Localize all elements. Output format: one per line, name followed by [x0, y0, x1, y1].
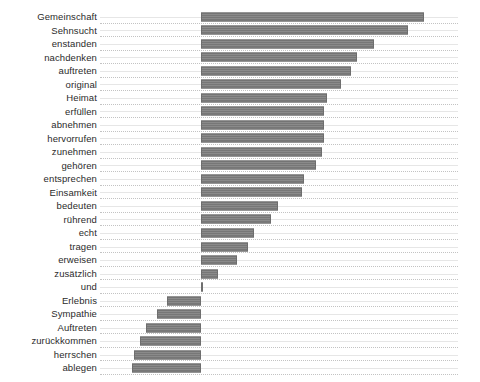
category-label-row: enstanden	[0, 37, 97, 51]
bar-row	[100, 280, 458, 294]
category-label: Einsamkeit	[50, 188, 97, 198]
bar	[201, 147, 322, 156]
bar-rows	[100, 10, 458, 375]
category-label: Sehnsucht	[51, 26, 97, 36]
bar	[201, 12, 424, 21]
category-label: erfüllen	[65, 107, 97, 117]
row-gridline-solid	[100, 274, 458, 275]
bar-row	[100, 213, 458, 227]
category-label-row: und	[0, 280, 97, 294]
category-label: zunehmen	[52, 147, 97, 157]
category-label: original	[66, 80, 97, 90]
category-label: ablegen	[62, 363, 97, 373]
row-gridline-solid	[100, 206, 458, 207]
bar	[167, 296, 201, 305]
bar-row	[100, 186, 458, 200]
category-label-row: erfüllen	[0, 105, 97, 119]
category-label: Auftreten	[58, 323, 97, 333]
bar-row	[100, 321, 458, 335]
bar-row	[100, 37, 458, 51]
bar	[201, 161, 316, 170]
category-label-row: original	[0, 78, 97, 92]
category-label-row: entsprechen	[0, 172, 97, 186]
bar	[201, 26, 408, 35]
bar-row	[100, 51, 458, 65]
category-label: bedeuten	[57, 201, 97, 211]
category-label-row: Sympathie	[0, 307, 97, 321]
bar-row	[100, 307, 458, 321]
row-gridline-solid	[100, 314, 458, 315]
row-gridline-solid	[100, 287, 458, 288]
bar	[201, 107, 324, 116]
category-label: Heimat	[66, 93, 97, 103]
category-label: hervorrufen	[47, 134, 97, 144]
bar-row	[100, 159, 458, 173]
bar-row	[100, 78, 458, 92]
bar	[146, 323, 201, 332]
category-label: echt	[79, 228, 97, 238]
row-gridline-solid	[100, 233, 458, 234]
category-label: tragen	[69, 242, 97, 252]
bar-row	[100, 294, 458, 308]
bar	[134, 350, 201, 359]
bar	[201, 174, 304, 183]
bar-row	[100, 226, 458, 240]
row-gridline-solid	[100, 301, 458, 302]
category-label-row: bedeuten	[0, 199, 97, 213]
category-label: und	[81, 282, 97, 292]
bar-row	[100, 145, 458, 159]
bar	[201, 120, 324, 129]
bar-row	[100, 132, 458, 146]
bar	[201, 242, 248, 251]
category-label: herrschen	[54, 350, 97, 360]
category-label-row: Einsamkeit	[0, 186, 97, 200]
category-label: erweisen	[58, 255, 97, 265]
bar-row	[100, 240, 458, 254]
category-label-row: Heimat	[0, 91, 97, 105]
category-label: zurückkommen	[31, 336, 97, 346]
category-label-row: ablegen	[0, 361, 97, 375]
bar-row	[100, 64, 458, 78]
category-label-row: erweisen	[0, 253, 97, 267]
row-gridline-solid	[100, 247, 458, 248]
bar-row	[100, 10, 458, 24]
bar-row	[100, 267, 458, 281]
plot-area	[100, 10, 458, 375]
category-label-row: auftreten	[0, 64, 97, 78]
category-label: Erlebnis	[62, 296, 97, 306]
category-label-row: herrschen	[0, 348, 97, 362]
category-label-row: zusätzlich	[0, 267, 97, 281]
category-label-row: Sehnsucht	[0, 24, 97, 38]
bar-row	[100, 348, 458, 362]
bar	[140, 337, 201, 346]
row-gridline-solid	[100, 260, 458, 261]
bar	[201, 188, 302, 197]
bar-row	[100, 91, 458, 105]
category-label-row: echt	[0, 226, 97, 240]
category-label: auftreten	[59, 66, 97, 76]
category-label-row: abnehmen	[0, 118, 97, 132]
bar-row	[100, 172, 458, 186]
category-label: rührend	[64, 215, 97, 225]
bar	[201, 53, 357, 62]
category-label: zusätzlich	[54, 269, 97, 279]
bar	[201, 93, 327, 102]
bar	[201, 283, 203, 292]
category-label-row: Auftreten	[0, 321, 97, 335]
category-label-row: rührend	[0, 213, 97, 227]
category-label: Sympathie	[51, 309, 97, 319]
category-label: Gemeinschaft	[37, 12, 97, 22]
bar	[201, 80, 341, 89]
bar	[201, 229, 254, 238]
category-label-row: Erlebnis	[0, 294, 97, 308]
category-label-row: zurückkommen	[0, 334, 97, 348]
bar-row	[100, 105, 458, 119]
category-label: abnehmen	[51, 120, 97, 130]
bar-row	[100, 334, 458, 348]
bar-row	[100, 361, 458, 375]
category-label-row: hervorrufen	[0, 132, 97, 146]
horizontal-bar-chart: GemeinschaftSehnsuchtenstandennachdenken…	[0, 0, 480, 382]
bar	[201, 256, 237, 265]
category-label: entsprechen	[44, 174, 97, 184]
category-label-row: tragen	[0, 240, 97, 254]
